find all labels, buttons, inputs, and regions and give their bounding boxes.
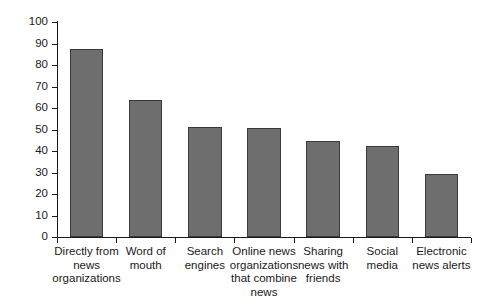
y-axis-tick-label-text: 0 (22, 231, 48, 242)
y-axis-tick-label: 70 (20, 81, 48, 92)
y-axis-tick-label-text: 90 (22, 38, 48, 49)
y-axis-tick-label-text: 40 (22, 145, 48, 156)
y-axis-tick-label: 50 (20, 124, 48, 135)
y-axis-tick (52, 87, 57, 88)
bar (247, 128, 280, 237)
bar (188, 127, 221, 237)
x-axis-tick (234, 238, 235, 243)
y-axis-tick-label: 10 (20, 210, 48, 221)
y-axis-tick-label: 100 (20, 16, 48, 27)
y-axis-tick-label-text: 60 (22, 102, 48, 113)
y-axis-tick-label: 40 (20, 145, 48, 156)
y-axis-tick (52, 65, 57, 66)
y-axis-tick-label: 0 (20, 231, 48, 242)
y-axis-tick-label: 30 (20, 167, 48, 178)
y-axis-line (57, 21, 58, 238)
y-axis-tick (52, 22, 57, 23)
y-axis-tick-label-text: 80 (22, 59, 48, 70)
y-axis-tick-label: 20 (20, 188, 48, 199)
y-axis-tick-label-text: 70 (22, 81, 48, 92)
y-axis-tick-label-text: 10 (22, 210, 48, 221)
x-axis-tick (116, 238, 117, 243)
y-axis-tick-label-text: 20 (22, 188, 48, 199)
bar (366, 146, 399, 237)
y-axis-tick (52, 194, 57, 195)
x-axis-tick (412, 238, 413, 243)
y-axis-tick-label: 90 (20, 38, 48, 49)
bar (70, 49, 103, 237)
y-axis-tick-label-text: 30 (22, 167, 48, 178)
y-axis-tick-label-text: 50 (22, 124, 48, 135)
y-axis-tick-label: 60 (20, 102, 48, 113)
y-axis-tick (52, 216, 57, 217)
x-axis-category-label: Electronic news alerts (406, 245, 477, 272)
x-axis-tick (294, 238, 295, 243)
x-axis-line (57, 237, 471, 238)
bar (425, 174, 458, 237)
x-axis-tick (175, 238, 176, 243)
x-axis-tick (353, 238, 354, 243)
y-axis-tick (52, 151, 57, 152)
x-axis-tick (57, 238, 58, 243)
x-axis-tick (471, 238, 472, 243)
y-axis-tick (52, 173, 57, 174)
y-axis-tick-label-text: 100 (22, 16, 48, 27)
y-axis-tick (52, 108, 57, 109)
y-axis-tick-label: 80 (20, 59, 48, 70)
bar-chart: % Used method last week 0102030405060708… (0, 0, 493, 307)
bar (129, 100, 162, 237)
y-axis-tick (52, 44, 57, 45)
y-axis-tick (52, 130, 57, 131)
bar (306, 141, 339, 237)
